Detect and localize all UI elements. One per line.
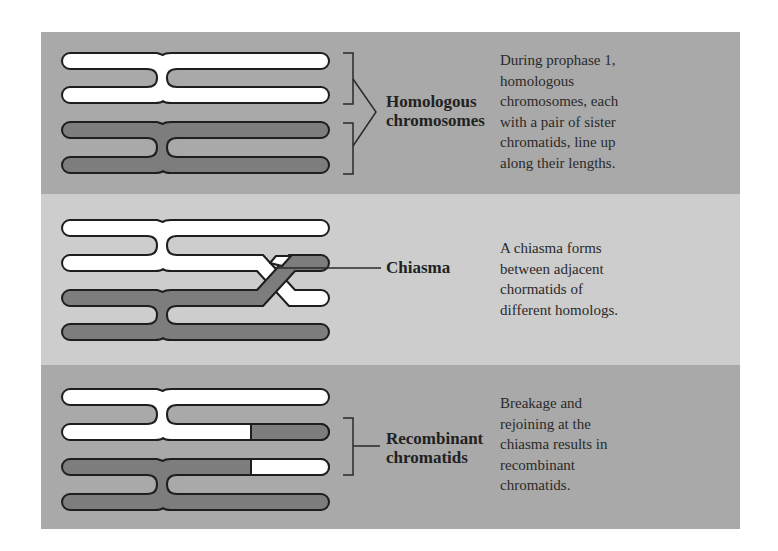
description-line: chromatids.: [500, 475, 607, 496]
dark-chromosome: [62, 122, 329, 173]
description-line: chromatids, line up: [500, 132, 618, 153]
description-line: different homologs.: [500, 300, 618, 321]
description-line: recombinant: [500, 455, 607, 476]
description-line: between adjacent: [500, 259, 618, 280]
description-line: A chiasma forms: [500, 238, 618, 259]
panel-homologous-chromosomes: Homologous chromosomes During prophase 1…: [41, 32, 740, 194]
panel-chiasma: Chiasma A chiasma forms between adjacent…: [41, 194, 740, 365]
description-line: Breakage and: [500, 393, 607, 414]
panel-recombinant-chromatids: Recombinant chromatids Breakage and rejo…: [41, 365, 740, 529]
crossing-chromatids: [62, 220, 336, 340]
label-recombinant-chromatids: Recombinant chromatids: [386, 429, 483, 467]
description-homologous: During prophase 1, homologous chromosome…: [500, 50, 618, 173]
description-chiasma: A chiasma forms between adjacent chormat…: [500, 238, 618, 320]
label-homologous-chromosomes: Homologous chromosomes: [386, 92, 485, 130]
dark-chromosome-body: [62, 122, 329, 173]
description-line: chromosomes, each: [500, 91, 618, 112]
label-line: Homologous: [386, 92, 485, 111]
label-line: Chiasma: [386, 258, 450, 277]
label-chiasma: Chiasma: [386, 258, 450, 277]
description-line: along their lengths.: [500, 153, 618, 174]
white-chromosome-body: [62, 53, 329, 103]
bracket-recombinant: [343, 418, 353, 475]
chiasma-illustration: [41, 194, 740, 365]
description-line: During prophase 1,: [500, 50, 618, 71]
bracket-pointer: [353, 79, 376, 146]
white-chromosome: [62, 53, 329, 103]
bracket-upper: [343, 53, 353, 104]
description-recombinant: Breakage and rejoining at the chiasma re…: [500, 393, 607, 496]
description-line: chiasma results in: [500, 434, 607, 455]
label-line: chromosomes: [386, 111, 485, 130]
description-line: with a pair of sister: [500, 112, 618, 133]
recombinant-chromosomes: [62, 389, 329, 510]
recombinant-dark-segment: [251, 424, 329, 440]
label-line: chromatids: [386, 448, 483, 467]
description-line: homologous: [500, 71, 618, 92]
description-line: rejoining at the: [500, 414, 607, 435]
strand-join-white: [235, 256, 238, 270]
description-line: chormatids of: [500, 279, 618, 300]
label-line: Recombinant: [386, 429, 483, 448]
strand-join-dark: [235, 291, 238, 305]
bracket-lower: [343, 123, 353, 174]
recombinant-white-segment: [251, 459, 329, 475]
